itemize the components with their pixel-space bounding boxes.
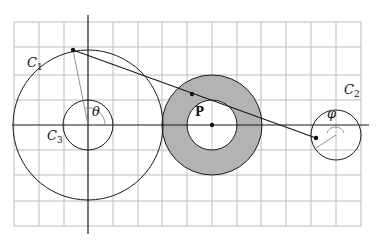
label-point-p: P xyxy=(195,105,204,119)
label-theta: θ xyxy=(92,104,100,119)
point-on-annulus xyxy=(190,92,194,96)
radius-c1 xyxy=(73,50,88,125)
point-p xyxy=(210,123,214,127)
label-c2: C2 xyxy=(344,82,360,99)
point-on-c2 xyxy=(314,136,318,140)
point-on-c1 xyxy=(71,48,75,52)
geometry-diagram: C1 C2 C3 P θ φ xyxy=(0,0,379,242)
label-c1: C1 xyxy=(27,55,43,72)
label-phi: φ xyxy=(327,106,337,121)
label-c3: C3 xyxy=(47,128,63,145)
radius-c2 xyxy=(316,135,336,148)
